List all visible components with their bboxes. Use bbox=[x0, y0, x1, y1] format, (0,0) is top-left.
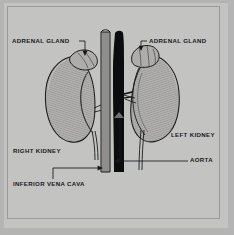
label-right-kidney: RIGHT KIDNEY bbox=[13, 148, 61, 154]
anatomy-illustration bbox=[0, 0, 234, 235]
left-adrenal-gland-drawing bbox=[132, 45, 160, 67]
kidney-anatomy-figure: ADRENAL GLAND ADRENAL GLAND RIGHT KIDNEY… bbox=[0, 0, 234, 235]
left-kidney-drawing bbox=[124, 45, 179, 170]
leader-ivc bbox=[53, 168, 99, 179]
label-adrenal-gland-left-side: ADRENAL GLAND bbox=[149, 38, 207, 44]
inferior-vena-cava-drawing bbox=[101, 30, 110, 172]
label-aorta: AORTA bbox=[190, 157, 213, 163]
label-inferior-vena-cava: INFERIOR VENA CAVA bbox=[13, 181, 85, 187]
label-left-kidney: LEFT KIDNEY bbox=[171, 132, 215, 138]
label-adrenal-gland-right-side: ADRENAL GLAND bbox=[12, 38, 70, 44]
right-kidney-drawing bbox=[45, 50, 106, 160]
